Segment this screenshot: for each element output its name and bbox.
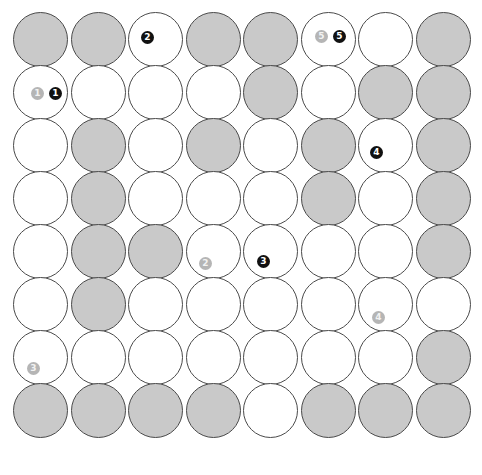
marker-4-light[interactable]: 4 — [372, 311, 385, 324]
marker-4-dark[interactable]: 4 — [370, 146, 383, 159]
marker-1-dark[interactable]: 1 — [49, 87, 62, 100]
circle-grid-canvas: 2551142343 — [0, 0, 482, 475]
marker-2-light[interactable]: 2 — [199, 257, 212, 270]
marker-2-dark[interactable]: 2 — [141, 31, 154, 44]
marker-5-light[interactable]: 5 — [315, 30, 328, 43]
marker-3-light[interactable]: 3 — [27, 362, 40, 375]
marker-1-light[interactable]: 1 — [31, 87, 44, 100]
marker-5-dark[interactable]: 5 — [333, 30, 346, 43]
marker-3-dark[interactable]: 3 — [257, 255, 270, 268]
marker-layer: 2551142343 — [0, 0, 482, 475]
